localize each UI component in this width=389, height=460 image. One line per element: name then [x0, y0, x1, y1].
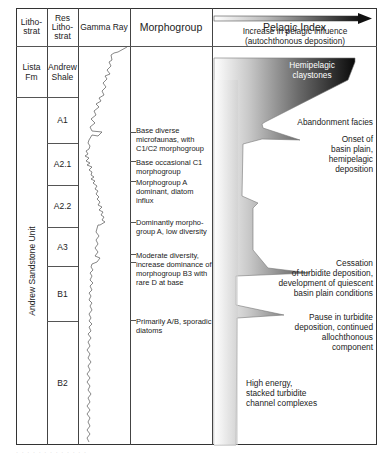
gamma-ray-curve	[85, 47, 127, 442]
figure-caption: · · · · · · · · · · · · ·	[16, 449, 236, 455]
pelagic-annotation-hemipelagic: Hemipelagic claystones	[280, 60, 344, 80]
morphogroup-note-moderate-diversity: Moderate diversity, increase dominance o…	[136, 251, 212, 287]
morphogroup-note-dominantly-a: Dominantly morpho-group A, low diversity	[136, 218, 212, 236]
pelagic-annotation-pause: Pause in turbidite deposition, continued…	[270, 312, 373, 352]
pelagic-annotation-cessation: Cessation of turbidite deposition, devel…	[260, 258, 373, 298]
morphogroup-note-primarily-ab: Primarily A/B, sporadic diatoms	[136, 317, 212, 335]
pelagic-arrow-label: Increase in pelagic influence (autochtho…	[218, 26, 372, 46]
pelagic-annotation-abandonment: Abandonment facies	[270, 117, 373, 127]
pelagic-arrow-icon	[214, 13, 372, 24]
morphogroup-note-morphogroup-a: Morphogroup A dominant, diatom influx	[136, 178, 212, 205]
morphogroup-note-base-occasional: Base occasional C1 morphogroup	[136, 158, 212, 176]
pelagic-annotation-high-energy: High energy, stacked turbidite channel c…	[246, 378, 356, 408]
morphogroup-note-base-diverse: Base diverse microfaunas, with C1/C2 mor…	[136, 126, 212, 153]
pelagic-annotation-onset-basin-plain: Onset of basin plain, hemipelagic deposi…	[300, 134, 373, 174]
